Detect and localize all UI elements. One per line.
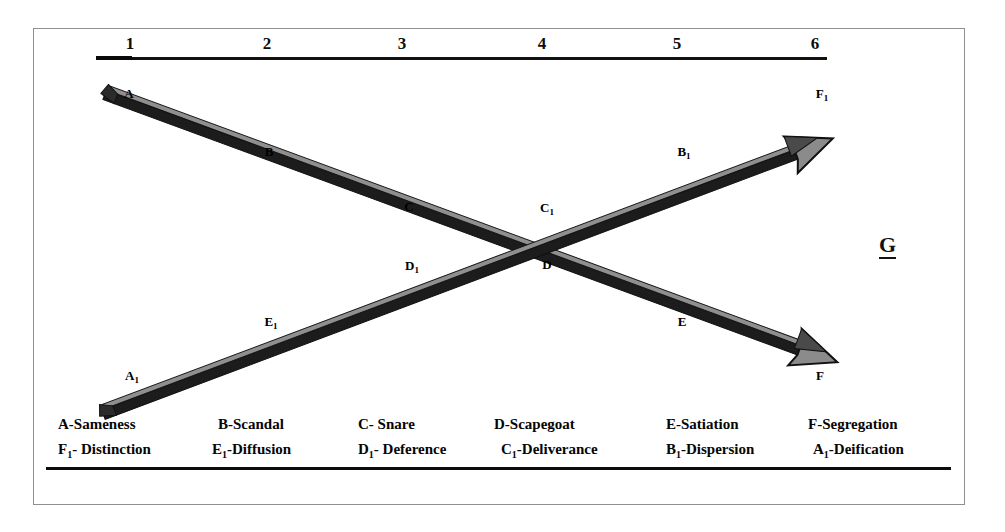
legend-item-f1-rest: - Distinction bbox=[72, 441, 151, 457]
legend-item-f1-letter: F bbox=[58, 441, 67, 457]
node-e: E bbox=[678, 315, 687, 328]
node-b1b: B1 bbox=[677, 145, 690, 162]
node-d1-letter: D bbox=[405, 258, 414, 273]
node-f1-sub: 1 bbox=[824, 93, 829, 103]
node-a1-letter: A bbox=[125, 368, 134, 383]
legend-item-b1-letter: B bbox=[666, 441, 676, 457]
legend-item-e1-rest: -Diffusion bbox=[227, 441, 291, 457]
g-marker-label: G bbox=[879, 234, 896, 259]
legend-item-d1-rest: - Deference bbox=[374, 441, 447, 457]
legend-item-d1: D1- Deference bbox=[358, 442, 446, 460]
descending-arrow bbox=[95, 74, 844, 381]
legend-item-e: E-Satiation bbox=[666, 417, 739, 432]
node-c1-sub: 1 bbox=[549, 207, 554, 217]
node-c: C bbox=[404, 200, 413, 213]
node-a1-sub: 1 bbox=[134, 375, 139, 385]
legend-item-b: B-Scandal bbox=[218, 417, 284, 432]
legend-item-c1: C1-Deliverance bbox=[501, 442, 598, 460]
node-f1: F1 bbox=[816, 87, 828, 104]
legend-item-a: A-Sameness bbox=[58, 417, 136, 432]
node-b1-sub: 1 bbox=[273, 321, 278, 331]
legend-row-top: A-Sameness B-Scandal C- Snare D-Scapegoa… bbox=[46, 417, 954, 442]
legend-item-a1-letter: A bbox=[813, 441, 824, 457]
legend-item-d: D-Scapegoat bbox=[494, 417, 575, 432]
node-d: D bbox=[542, 258, 551, 271]
node-c1-letter: C bbox=[540, 200, 549, 215]
legend-underline bbox=[46, 467, 951, 470]
node-b1: E1 bbox=[264, 315, 277, 332]
ascending-arrow bbox=[92, 121, 840, 433]
diagram-canvas: 1 2 3 4 5 6 bbox=[0, 0, 1005, 532]
node-b: B bbox=[265, 145, 274, 158]
legend-item-e1-letter: E bbox=[212, 441, 222, 457]
legend-item-b1: B1-Dispersion bbox=[666, 442, 754, 460]
node-f: F bbox=[816, 369, 824, 382]
node-a1: A1 bbox=[125, 369, 139, 386]
node-d1: D1 bbox=[405, 259, 419, 276]
legend-item-c: C- Snare bbox=[358, 417, 415, 432]
legend-item-b1-rest: -Dispersion bbox=[681, 441, 754, 457]
legend-row-bottom: F1- Distinction E1-Diffusion D1- Deferen… bbox=[46, 442, 954, 467]
node-a: A bbox=[124, 87, 133, 100]
node-b1b-letter: B bbox=[677, 144, 686, 159]
legend-item-d1-letter: D bbox=[358, 441, 369, 457]
legend-item-f1: F1- Distinction bbox=[58, 442, 151, 460]
legend-item-a1: A1-Deification bbox=[813, 442, 904, 460]
node-b1-letter: E bbox=[264, 314, 273, 329]
node-f1-letter: F bbox=[816, 86, 824, 101]
node-b1b-sub: 1 bbox=[686, 151, 691, 161]
legend-item-e1: E1-Diffusion bbox=[212, 442, 291, 460]
legend-item-f: F-Segregation bbox=[808, 417, 898, 432]
legend-item-c1-letter: C bbox=[501, 441, 512, 457]
legend: A-Sameness B-Scandal C- Snare D-Scapegoa… bbox=[46, 417, 954, 467]
node-d1-sub: 1 bbox=[414, 265, 419, 275]
legend-item-a1-rest: -Deification bbox=[829, 441, 904, 457]
diagram-frame: 1 2 3 4 5 6 bbox=[33, 28, 965, 505]
legend-item-c1-rest: -Deliverance bbox=[517, 441, 598, 457]
node-c1: C1 bbox=[540, 201, 554, 218]
